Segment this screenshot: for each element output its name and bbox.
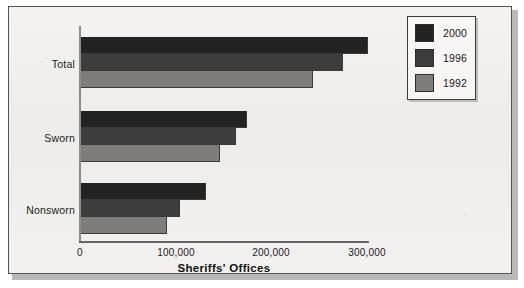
y-category-label-nonsworn: Nonsworn bbox=[13, 204, 75, 216]
legend-entry-1996: 1996 bbox=[415, 48, 467, 68]
y-category-label-total: Total bbox=[13, 58, 75, 70]
bar-total-1992 bbox=[81, 71, 313, 88]
bar-sworn-2000 bbox=[81, 111, 247, 128]
legend-swatch-1996-icon bbox=[415, 49, 434, 67]
bar-sworn-1996 bbox=[81, 128, 236, 145]
figure-frame: Total Sworn Nonsworn 0 100,000 200,000 3… bbox=[8, 6, 512, 274]
x-tick-label-100000: 100,000 bbox=[157, 247, 195, 258]
bar-total-2000 bbox=[81, 37, 368, 54]
legend-label-2000: 2000 bbox=[443, 27, 467, 39]
bar-nonsworn-1996 bbox=[81, 200, 180, 217]
legend-entry-1992: 1992 bbox=[415, 73, 467, 93]
x-tick-label-0: 0 bbox=[77, 247, 83, 258]
legend-swatch-1992-icon bbox=[415, 74, 434, 92]
legend-label-1992: 1992 bbox=[443, 77, 467, 89]
bar-nonsworn-2000 bbox=[81, 183, 206, 200]
bar-total-1996 bbox=[81, 54, 343, 71]
y-category-label-sworn: Sworn bbox=[13, 132, 75, 144]
legend-entry-2000: 2000 bbox=[415, 23, 467, 43]
paper-speckle bbox=[464, 212, 466, 214]
bar-sworn-1992 bbox=[81, 145, 220, 162]
x-tick-label-300000: 300,000 bbox=[348, 247, 386, 258]
x-axis-line bbox=[79, 241, 369, 243]
chart-legend: 2000 1996 1992 bbox=[407, 16, 476, 100]
legend-label-1996: 1996 bbox=[443, 52, 467, 64]
y-axis-category-labels: Total Sworn Nonsworn bbox=[9, 7, 75, 273]
chart-figure: Total Sworn Nonsworn 0 100,000 200,000 3… bbox=[0, 0, 524, 288]
x-tick-label-200000: 200,000 bbox=[252, 247, 290, 258]
bar-nonsworn-1992 bbox=[81, 217, 167, 234]
x-axis-title: Sheriffs' Offices bbox=[79, 262, 369, 274]
legend-swatch-2000-icon bbox=[415, 24, 434, 42]
